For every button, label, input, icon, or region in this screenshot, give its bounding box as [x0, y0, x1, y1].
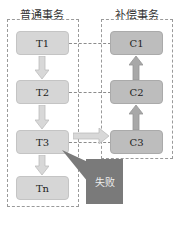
arrow-right-icon — [73, 128, 109, 144]
transaction-t2: T2 — [16, 80, 69, 104]
callout-pointer — [62, 150, 88, 190]
arrow-down-icon — [35, 56, 49, 80]
transaction-t1: T1 — [16, 31, 69, 55]
arrow-down-icon — [35, 155, 49, 176]
arrow-up-icon — [129, 105, 143, 130]
connector-t1-c1 — [69, 43, 111, 44]
arrow-down-icon — [35, 105, 49, 130]
compensation-c2: C2 — [110, 80, 163, 104]
arrow-up-icon — [129, 56, 143, 80]
failure-callout: 失败 — [86, 159, 123, 204]
compensation-c1: C1 — [110, 31, 163, 55]
compensation-c3: C3 — [110, 130, 163, 154]
connector-t2-c2 — [69, 92, 111, 93]
